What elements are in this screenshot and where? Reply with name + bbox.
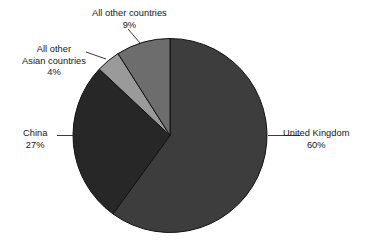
- slice-label-all-other-asian-countries-line1: All other: [37, 44, 71, 54]
- slice-label-china-percent: 27%: [23, 140, 47, 152]
- slice-label-all-other-countries-name: All other countries: [92, 8, 167, 18]
- leader-line-all-other-asian-countries: [86, 52, 106, 59]
- slice-label-china-name: China: [23, 128, 47, 138]
- slice-label-united-kingdom-percent: 60%: [283, 140, 349, 152]
- slice-label-all-other-countries: All other countries 9%: [92, 8, 167, 31]
- pie-chart: United Kingdom 60% China 27% All other A…: [0, 0, 372, 243]
- slice-label-all-other-asian-countries: All other Asian countries 4%: [22, 44, 86, 79]
- slice-label-all-other-asian-countries-line2: Asian countries: [22, 56, 86, 68]
- slice-label-all-other-asian-countries-percent: 4%: [22, 67, 86, 79]
- slice-label-china: China 27%: [23, 128, 47, 151]
- slice-label-united-kingdom-name: United Kingdom: [283, 128, 349, 138]
- slice-label-all-other-countries-percent: 9%: [92, 20, 167, 32]
- slice-label-united-kingdom: United Kingdom 60%: [283, 128, 349, 151]
- pie-chart-graphic: [0, 0, 372, 243]
